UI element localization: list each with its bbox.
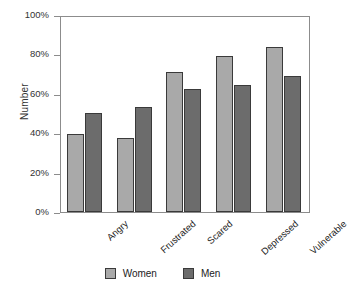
x-tick-label-frustrated: Frustrated (159, 218, 199, 255)
bar-group (259, 17, 309, 212)
legend-item-men: Men (183, 268, 220, 279)
y-tick-mark (54, 213, 60, 214)
bar-men-frustrated (135, 107, 152, 212)
x-tick-label-vulnerable: Vulnerable (308, 218, 349, 256)
y-tick-label: 80% (30, 48, 49, 59)
y-tick-label: 0% (35, 206, 49, 217)
x-tick-label-scared: Scared (205, 218, 235, 246)
y-tick-label: 60% (30, 88, 49, 99)
bar-women-depressed (216, 56, 233, 212)
y-tick-label: 40% (30, 127, 49, 138)
bar-men-depressed (234, 85, 251, 212)
bar-women-angry (67, 134, 84, 212)
bar-men-scared (184, 89, 201, 212)
bar-group (61, 17, 111, 212)
bar-women-scared (166, 72, 183, 212)
legend-swatch-women (105, 268, 116, 279)
bar-women-vulnerable (266, 47, 283, 212)
bar-group (111, 17, 161, 212)
bar-men-angry (85, 113, 102, 212)
y-tick-label: 100% (25, 9, 49, 20)
bar-men-vulnerable (284, 76, 301, 213)
bar-group (210, 17, 260, 212)
chart-legend: WomenMen (0, 268, 325, 279)
legend-label-men: Men (201, 268, 220, 279)
x-tick-label-angry: Angry (104, 218, 130, 243)
bars-layer (61, 17, 309, 212)
legend-label-women: Women (123, 268, 157, 279)
bar-women-frustrated (117, 138, 134, 212)
y-tick-label: 20% (30, 167, 49, 178)
y-axis-title: Number (19, 62, 30, 142)
x-tick-label-depressed: Depressed (258, 218, 300, 257)
legend-swatch-men (183, 268, 194, 279)
bar-group (160, 17, 210, 212)
legend-item-women: Women (105, 268, 157, 279)
